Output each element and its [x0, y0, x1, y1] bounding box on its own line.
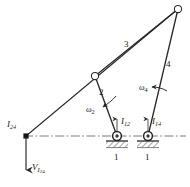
linkage-figure: 2 3 4 1 1 ω2 ω4 I24 I12 I14 VI24 [0, 0, 190, 187]
ground-link-label-right: 1 [145, 153, 150, 162]
link-2 [95, 76, 117, 136]
velocity-subscript-number: 24 [40, 169, 45, 174]
ground-pivot-left [106, 132, 128, 148]
pivot-joint-34 [174, 5, 181, 12]
link-2-label: 2 [99, 88, 104, 97]
pivot-joint-23 [91, 72, 98, 79]
omega2-subscript: 2 [92, 108, 95, 115]
velocity-label: VI24 [32, 163, 45, 174]
link-3-label: 3 [124, 40, 129, 49]
ic24-subscript: 24 [10, 123, 16, 130]
ic14-subscript: 14 [155, 120, 161, 127]
omega2-label: ω2 [86, 105, 95, 115]
linkage-drawing [0, 0, 190, 187]
ic12-subscript: 12 [124, 120, 130, 127]
omega4-subscript: 4 [145, 86, 148, 93]
instant-center-12-label: I12 [121, 117, 130, 127]
link-4-label: 4 [166, 60, 171, 69]
instant-center-24-label: I24 [7, 120, 16, 130]
ground-pivot-right [137, 132, 159, 148]
omega4-label: ω4 [139, 83, 148, 93]
instant-center-14-label: I14 [152, 117, 161, 127]
ground-link-label-left: 1 [114, 153, 119, 162]
